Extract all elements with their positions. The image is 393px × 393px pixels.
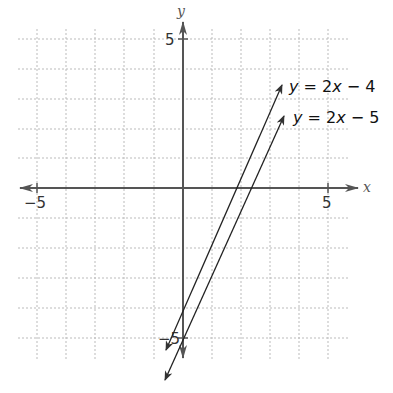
y-tick-neg5: −5 <box>158 330 180 348</box>
equation-label-2: y = 2x − 5 <box>292 108 379 127</box>
y-axis-label: y <box>176 3 186 19</box>
equation-label-1: y = 2x − 4 <box>288 77 375 96</box>
x-axis-label: x <box>363 179 371 195</box>
coordinate-plane: x y −5 5 5 −5 y = 2x − 4 y = 2x − 5 <box>0 0 393 393</box>
x-tick-neg5: −5 <box>24 194 46 212</box>
y-tick-5: 5 <box>165 31 175 49</box>
x-tick-5: 5 <box>322 194 332 212</box>
graph-svg: x y −5 5 5 −5 y = 2x − 4 y = 2x − 5 <box>0 0 393 393</box>
